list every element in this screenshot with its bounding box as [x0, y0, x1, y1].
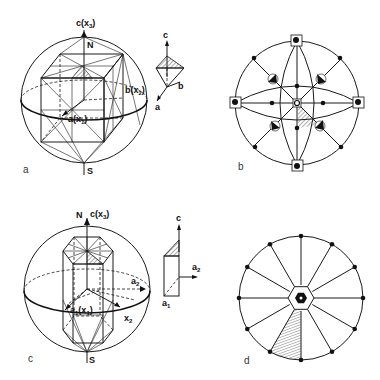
inset-label-a1: a1 [162, 298, 171, 309]
caption-b: b [238, 161, 244, 172]
label-south: S [89, 355, 95, 365]
crystal-symmetry-figure: c(x3) N S b(x2) a(x1) a c b a [0, 0, 380, 380]
label-c-x3: c(x3) [76, 18, 95, 29]
inset-label-c: c [163, 30, 168, 40]
inset-label-c: c [176, 213, 181, 223]
hatched-unit-c [87, 251, 103, 264]
caption-a: a [23, 164, 29, 175]
label-c-x3: c(x3) [90, 209, 109, 220]
panel-b: b [230, 35, 364, 172]
inset-c: c a2 a1 [162, 213, 201, 309]
caption-c: c [28, 353, 33, 364]
hexagonal-prism [63, 237, 135, 352]
label-a-x1: a(x1) [68, 114, 87, 125]
caption-d: d [244, 355, 250, 366]
panel-c: N c(x3) S a2 a1(x1) x2 c c a2 a1 [24, 209, 201, 365]
label-north: N [76, 210, 83, 220]
inset-label-a2: a2 [192, 262, 201, 273]
label-x2: x2 [124, 313, 133, 324]
inset-a: c b a [155, 30, 184, 112]
hatched-unit-d [270, 310, 301, 360]
label-a1-x1: a1(x1) [70, 305, 93, 316]
label-south: S [87, 166, 93, 176]
inset-label-b: b [178, 81, 184, 91]
label-b-x2: b(x2) [125, 85, 145, 96]
panel-d: d [237, 234, 366, 366]
panel-a: c(x3) N S b(x2) a(x1) a c b a [21, 18, 184, 176]
label-north: N [87, 40, 94, 50]
label-a2: a2 [131, 276, 140, 287]
inset-label-a: a [155, 102, 161, 112]
c-axis-arrow-icon [81, 31, 87, 37]
